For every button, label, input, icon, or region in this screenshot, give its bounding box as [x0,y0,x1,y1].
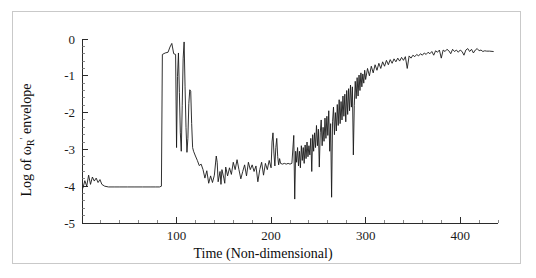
y-tick-label: -3 [64,142,75,157]
y-tick-label: -5 [64,216,75,231]
x-axis-ticks [101,217,498,223]
y-axis-tick-labels: 0-1-2-3-4-5 [64,32,75,231]
data-series [83,42,493,199]
chart-plot: 100200300400 0-1-2-3-4-5 Time (Non-dimen… [13,12,520,263]
x-tick-label: 400 [450,228,470,243]
x-tick-label: 100 [167,228,187,243]
series-line [83,42,493,199]
y-tick-label: -1 [64,68,75,83]
y-tick-label: -2 [64,105,75,120]
x-axis-tick-labels: 100200300400 [167,228,470,243]
y-tick-label: 0 [69,32,76,47]
axis-lines [83,39,499,224]
y-axis-title-prefix: Log of [19,155,34,196]
y-axis-title: Log of ωR' envelope [18,84,36,197]
x-tick-label: 300 [356,228,376,243]
axes [83,39,499,224]
figure-frame: 100200300400 0-1-2-3-4-5 Time (Non-dimen… [12,11,521,264]
x-axis-title: Time (Non-dimensional) [193,246,332,262]
x-tick-label: 200 [261,228,281,243]
svg-text:Log of ωR' envelope: Log of ωR' envelope [18,84,36,197]
y-tick-label: -4 [64,179,75,194]
y-axis-title-symbol: ω [19,146,34,155]
y-axis-title-suffix: envelope [19,84,34,138]
